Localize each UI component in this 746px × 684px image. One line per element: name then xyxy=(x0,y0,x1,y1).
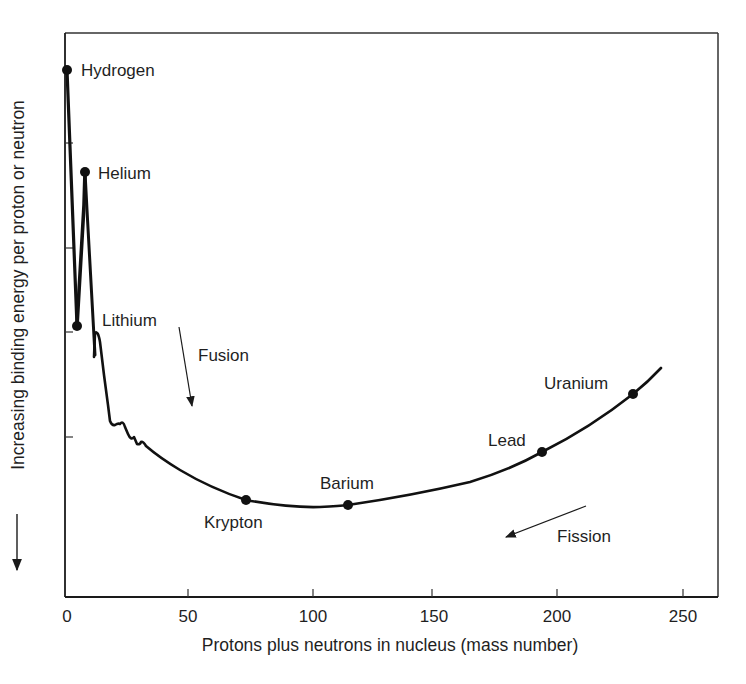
krypton-label: Krypton xyxy=(204,513,263,532)
point-labels: Hydrogen Helium Lithium Krypton Barium L… xyxy=(81,61,608,532)
lead-point xyxy=(537,447,547,457)
fusion-annotation: Fusion xyxy=(179,327,249,406)
x-tick-label: 200 xyxy=(543,607,571,626)
curve-main xyxy=(94,332,661,507)
curve-hydrogen-segment xyxy=(67,70,77,326)
binding-energy-chart: 0 50 100 150 200 250 Protons plus neutro… xyxy=(0,0,746,684)
x-tick-label: 250 xyxy=(669,607,697,626)
hydrogen-label: Hydrogen xyxy=(81,61,155,80)
x-tick-label: 0 xyxy=(62,607,71,626)
lithium-label: Lithium xyxy=(102,311,157,330)
curve-helium-spike xyxy=(77,172,85,326)
plot-frame xyxy=(65,33,718,597)
uranium-point xyxy=(628,389,638,399)
x-tick-label: 100 xyxy=(299,607,327,626)
x-ticks xyxy=(188,589,683,597)
helium-label: Helium xyxy=(98,164,151,183)
fission-label: Fission xyxy=(557,527,611,546)
lithium-point xyxy=(72,321,82,331)
curve xyxy=(67,70,661,507)
hydrogen-point xyxy=(62,65,72,75)
fission-annotation: Fission xyxy=(506,506,611,546)
helium-point xyxy=(80,167,90,177)
uranium-label: Uranium xyxy=(544,374,608,393)
barium-label: Barium xyxy=(320,474,374,493)
x-tick-label: 50 xyxy=(179,607,198,626)
data-points xyxy=(62,65,638,510)
lead-label: Lead xyxy=(488,431,526,450)
fusion-label: Fusion xyxy=(198,346,249,365)
x-axis-label: Protons plus neutrons in nucleus (mass n… xyxy=(202,635,578,655)
krypton-point xyxy=(241,495,251,505)
fusion-arrow-icon xyxy=(179,327,192,406)
curve-helium-down xyxy=(85,172,95,355)
y-axis-label: Increasing binding energy per proton or … xyxy=(8,100,28,470)
x-tick-label: 150 xyxy=(420,607,448,626)
barium-point xyxy=(343,500,353,510)
x-tick-labels: 0 50 100 150 200 250 xyxy=(62,607,697,626)
